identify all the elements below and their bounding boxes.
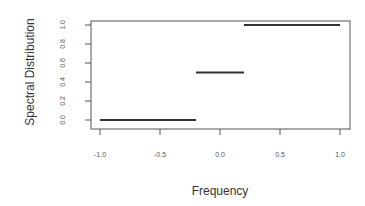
chart: -1.0-0.50.00.51.0 0.00.20.40.60.81.0 Fre… (0, 0, 365, 206)
x-tick-label: -0.5 (154, 151, 166, 158)
y-tick-label: 0.6 (59, 58, 66, 68)
y-tick-label: 1.0 (59, 20, 66, 30)
y-tick-label: 0.8 (59, 39, 66, 49)
y-axis-title: Spectral Distribution (23, 18, 37, 125)
y-tick-label: 0.2 (59, 96, 66, 106)
y-axis: 0.00.20.40.60.81.0 (59, 20, 91, 125)
x-axis-title: Frequency (192, 184, 249, 198)
plot-box (91, 21, 350, 129)
x-tick-label: 0.0 (215, 151, 225, 158)
x-tick-label: -1.0 (94, 151, 106, 158)
y-tick-label: 0.0 (59, 115, 66, 125)
x-tick-label: 0.5 (275, 151, 285, 158)
y-tick-label: 0.4 (59, 77, 66, 87)
x-axis: -1.0-0.50.00.51.0 (94, 129, 345, 158)
data-segments (100, 25, 340, 120)
x-tick-label: 1.0 (335, 151, 345, 158)
